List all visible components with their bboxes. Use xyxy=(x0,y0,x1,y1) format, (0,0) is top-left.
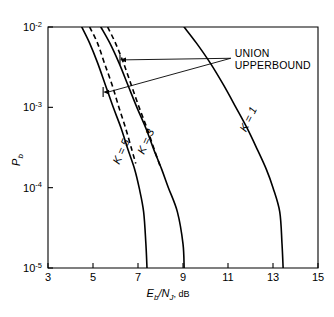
x-tick-label-7: 7 xyxy=(135,271,141,283)
curve-label-k-3: K = 3 xyxy=(135,126,157,155)
annotation-arrowhead-2 xyxy=(103,90,109,95)
annotations: UNIONUPPERBOUND xyxy=(103,47,311,97)
y-tick-label-1: 10-3 xyxy=(23,100,42,114)
annotation-leader-2 xyxy=(108,58,231,92)
figure-container: UNIONUPPERBOUND 357911131510-210-310-410… xyxy=(0,0,334,317)
x-tick-label-13: 13 xyxy=(267,271,279,283)
bit-error-rate-chart: UNIONUPPERBOUND 357911131510-210-310-410… xyxy=(0,0,334,317)
x-tick-label-11: 11 xyxy=(222,271,233,283)
x-axis-title: Eb/NJ, dB xyxy=(147,287,190,302)
annotation-leader-1 xyxy=(125,58,231,60)
annotation-union-line2: UPPERBOUND xyxy=(235,59,311,71)
x-tick-label-15: 15 xyxy=(312,271,324,283)
y-tick-label-2: 10-4 xyxy=(23,180,42,194)
x-tick-label-9: 9 xyxy=(180,271,186,283)
curve-label-k-1: K = 1 xyxy=(237,105,259,134)
x-tick-label-5: 5 xyxy=(90,271,96,283)
y-tick-label-0: 10-2 xyxy=(23,20,42,34)
annotation-union-line1: UNION xyxy=(235,47,270,59)
x-tick-label-3: 3 xyxy=(45,271,51,283)
y-axis-title: Pb xyxy=(10,154,25,166)
y-tick-label-3: 10-5 xyxy=(23,261,42,275)
